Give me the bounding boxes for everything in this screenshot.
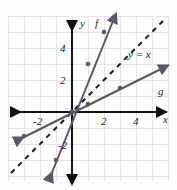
x-tick-minus2: -2 (33, 116, 42, 127)
y-tick-2: 2 (60, 75, 66, 86)
x-tick-2: 2 (101, 116, 107, 127)
x-tick-4: 4 (133, 116, 139, 127)
y-tick-4: 4 (60, 43, 66, 54)
x-axis-label: x (163, 114, 168, 125)
y-axis-label: y (80, 18, 85, 29)
graph-figure: y x -2 2 4 4 2 -2 f g y = x (0, 0, 177, 190)
series-f-label: f (95, 18, 98, 29)
coordinate-plane (0, 0, 177, 190)
series-identity-label: y = x (128, 49, 151, 60)
series-f-line (49, 21, 113, 180)
series-g-label: g (158, 86, 164, 97)
grid-lines (8, 16, 168, 181)
y-tick-minus2: -2 (58, 140, 67, 151)
